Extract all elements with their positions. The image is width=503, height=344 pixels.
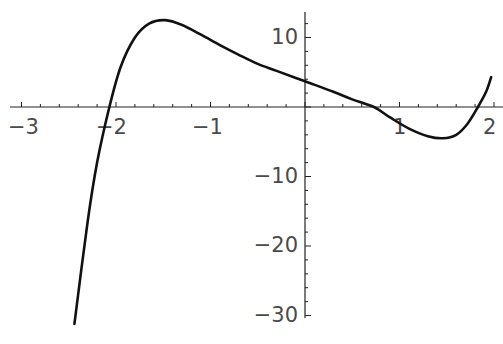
y-tick-label: −30 (254, 303, 298, 327)
function-plot: −3 −2 −1 1 2 10 −10 −20 −30 (0, 0, 503, 344)
x-tick-label: 2 (483, 115, 496, 139)
y-tick-label: −20 (254, 233, 298, 257)
x-tick-label: −1 (192, 115, 223, 139)
y-tick-label: 10 (271, 25, 298, 49)
y-tick-label: −10 (254, 164, 298, 188)
x-tick-label: −3 (8, 115, 39, 139)
x-tick-label: −2 (96, 115, 127, 139)
